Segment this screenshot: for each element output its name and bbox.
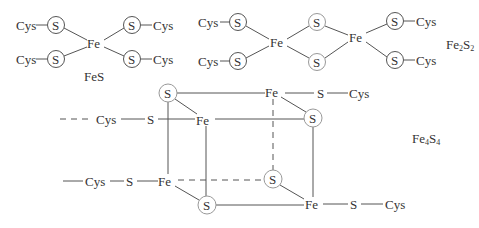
sulfur-label: S <box>391 14 398 29</box>
cys-label: Cys <box>385 197 405 212</box>
iron-label: Fe <box>158 174 171 189</box>
sulfur-label: S <box>309 111 316 126</box>
cys-label: Cys <box>96 112 116 127</box>
sulfur-label: S <box>317 86 324 101</box>
iron-label: Fe <box>305 197 318 212</box>
sulfur-label: S <box>126 174 133 189</box>
sulfur-label: S <box>52 18 59 33</box>
iron-label: Fe <box>196 113 209 128</box>
cys-label: Cys <box>198 54 218 69</box>
fe4s4-cluster-label: Fe4S4 <box>412 131 440 147</box>
iron-label: Fe <box>270 35 283 50</box>
cys-label: Cys <box>349 86 369 101</box>
iron-label: Fe <box>349 30 362 45</box>
cys-label: Cys <box>153 18 173 33</box>
fe2s2-cluster: Cys Cys Cys Cys S S S S S S Fe Fe Fe2S2 <box>198 13 474 71</box>
iron-label: Fe <box>265 85 278 100</box>
fe4s4-cluster: Cys S Cys S S Cys S Cys S S S S Fe Fe Fe… <box>60 84 440 214</box>
fe2s2-cluster-label: Fe2S2 <box>446 37 474 53</box>
sulfur-label: S <box>269 172 276 187</box>
sulfur-label: S <box>164 86 171 101</box>
iron-label: Fe <box>87 36 100 51</box>
sulfur-label: S <box>52 52 59 67</box>
fes-cluster-label: FeS <box>84 69 104 84</box>
sulfur-label: S <box>350 197 357 212</box>
sulfur-label: S <box>313 55 320 70</box>
iron-sulfur-diagram: Cys Cys Cys Cys S S S S Fe FeS Cys Cys C… <box>0 0 479 228</box>
sulfur-label: S <box>234 15 241 30</box>
sulfur-label: S <box>147 112 154 127</box>
cys-label: Cys <box>16 52 36 67</box>
sulfur-label: S <box>234 54 241 69</box>
cys-label: Cys <box>85 174 105 189</box>
cys-label: Cys <box>16 18 36 33</box>
cys-label: Cys <box>416 14 436 29</box>
cys-label: Cys <box>416 53 436 68</box>
sulfur-label: S <box>203 198 210 213</box>
sulfur-label: S <box>128 18 135 33</box>
sulfur-label: S <box>128 52 135 67</box>
sulfur-label: S <box>391 53 398 68</box>
cys-label: Cys <box>198 15 218 30</box>
sulfur-label: S <box>313 15 320 30</box>
fes-cluster: Cys Cys Cys Cys S S S S Fe FeS <box>16 17 173 85</box>
cys-label: Cys <box>153 52 173 67</box>
